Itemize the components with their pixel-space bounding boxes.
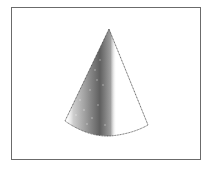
- cone-illustration: [0, 0, 210, 169]
- cone-body: [65, 29, 148, 136]
